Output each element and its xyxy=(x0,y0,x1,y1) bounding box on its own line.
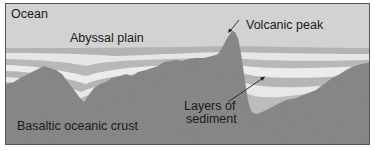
volcanic-peak-label: Volcanic peak xyxy=(246,19,323,33)
ocean-label: Ocean xyxy=(11,8,48,22)
abyssal-plain-label: Abyssal plain xyxy=(70,32,144,46)
layers-of-sediment-label-line2: sediment xyxy=(186,113,237,127)
diagram-frame: Ocean Abyssal plain Volcanic peak Layers… xyxy=(5,3,370,145)
basaltic-crust-label: Basaltic oceanic crust xyxy=(17,120,138,134)
